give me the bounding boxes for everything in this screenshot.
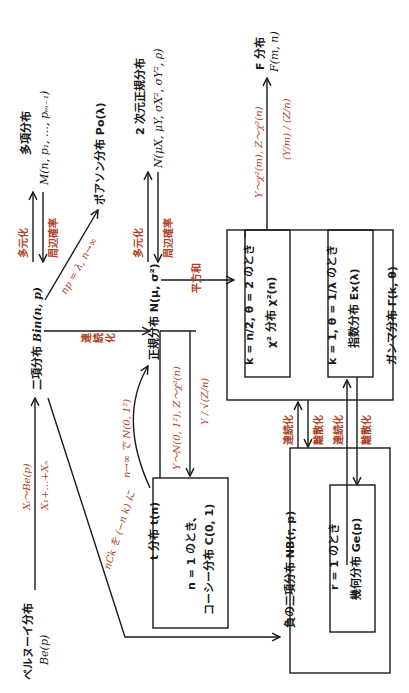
f-formula: F(m, n) bbox=[268, 31, 281, 73]
geo-cond: r = 1 のとき bbox=[328, 523, 341, 590]
f-name: F 分布 bbox=[253, 37, 267, 70]
gamma-name: ガンマ分布 Γ(k, θ) bbox=[385, 266, 399, 365]
bivariate-formula: N(μX, μY, σX², σY², ρ) bbox=[152, 48, 165, 169]
negbin-name: 負の二項分布 NB(r, p) bbox=[283, 511, 297, 628]
diagram-canvas: ベルヌーイ分布 Be(p) Xᵢ〜Be(p) X₁+…+Xₙ 二項分布 Bin(… bbox=[0, 0, 409, 693]
distribution-relationship-diagram: ベルヌーイ分布 Be(p) Xᵢ〜Be(p) X₁+…+Xₙ 二項分布 Bin(… bbox=[0, 0, 409, 693]
bernoulli-name: ベルヌーイ分布 bbox=[21, 603, 35, 680]
label-sum-sq: 平方和 bbox=[190, 263, 202, 293]
multinomial-name: 多項分布 bbox=[19, 111, 33, 155]
label-negbin: nCk を (−n k) に bbox=[101, 489, 137, 571]
label-multi-down: 周辺確率 bbox=[47, 218, 59, 258]
bernoulli-formula: Be(p) bbox=[38, 635, 51, 666]
label-bin-normal-2: 続 bbox=[92, 333, 104, 343]
label-f-ratio: (Y/m) / (Z/n) bbox=[281, 98, 292, 160]
t-sub: コーシー分布 C(0, 1) bbox=[202, 504, 216, 615]
binomial-node: 二項分布 Bin(n, p) bbox=[30, 287, 44, 390]
label-bin-normal-3: 化 bbox=[104, 333, 116, 343]
arrow-binomial-to-negbin bbox=[48, 398, 280, 637]
label-exp-geo-1: 連続化 bbox=[332, 415, 344, 445]
label-gamma-nb-2: 離散化 bbox=[312, 415, 324, 445]
label-f-cond: Y〜χ²(m), Z〜χ²(n) bbox=[253, 106, 264, 198]
chi2-cond: k = n/2, θ = 2 のとき bbox=[243, 244, 256, 365]
label-t-limit: n→∞ で N(0, 1²) bbox=[121, 399, 132, 478]
label-biv-up: 多元化 bbox=[132, 228, 144, 258]
exp-name: 指数分布 Ex(λ) bbox=[347, 269, 361, 348]
t-cond: n = 1 のとき、 bbox=[185, 511, 198, 590]
label-bin-normal-1: 連 bbox=[80, 332, 92, 343]
t-name: t 分布 t(n) bbox=[147, 502, 161, 560]
normal-node: 正規分布 N(μ, σ²) bbox=[147, 263, 161, 360]
geo-name: 幾何分布 Ge(p) bbox=[349, 518, 363, 600]
arrow-t-to-normal-limit bbox=[133, 366, 150, 488]
label-t-ratio: Y / √(Z/n) bbox=[199, 378, 210, 425]
label-gamma-nb-1: 連続化 bbox=[282, 415, 294, 445]
bivariate-name: 2 次元正規分布 bbox=[133, 58, 147, 135]
label-multi-up: 多元化 bbox=[17, 228, 29, 258]
poisson-node: ポアソン分布 Po(λ) bbox=[93, 103, 107, 205]
chi2-name: χ² 分布 χ²(n) bbox=[264, 277, 278, 348]
label-biv-down: 周辺確率 bbox=[162, 218, 174, 258]
label-bern-bottom: X₁+…+Xₙ bbox=[39, 461, 50, 511]
multinomial-formula: M(n, p₁, …, pₘ₋₁) bbox=[38, 91, 51, 186]
label-t-cond: Y〜N(0, 1²), Z〜χ²(n) bbox=[171, 366, 182, 470]
label-bern-top: Xᵢ〜Be(p) bbox=[21, 463, 32, 511]
label-exp-geo-2: 離散化 bbox=[360, 415, 372, 445]
exp-cond: k = 1, θ = 1/λ のとき bbox=[326, 245, 339, 365]
